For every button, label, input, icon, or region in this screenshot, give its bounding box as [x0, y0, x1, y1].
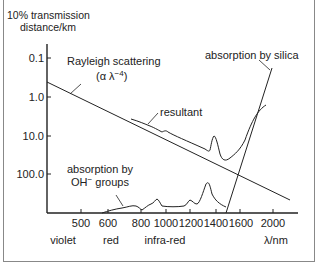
x-tick-600: 600 — [99, 217, 117, 229]
silica-label: absorption by silica — [205, 49, 299, 61]
y-tick-1.0: 1.0 — [29, 91, 44, 103]
resultant-label: resultant — [160, 106, 202, 118]
x-tick-1600: 1600 — [229, 217, 253, 229]
y-tick-100.0: 100.0 — [16, 168, 44, 180]
x-tick-1000: 1000 — [154, 217, 178, 229]
rayleigh-label: Rayleigh scattering — [67, 55, 161, 67]
oh-label-line2: OH− groups — [71, 175, 129, 188]
y-tick-0.1: 0.1 — [29, 52, 44, 64]
y-tick-10.0: 10.0 — [23, 130, 44, 142]
label-infra-red: infra-red — [145, 234, 186, 246]
x-tick-800: 800 — [132, 217, 150, 229]
x-tick-1200: 1200 — [179, 217, 203, 229]
x-tick-500: 500 — [72, 217, 90, 229]
rayleigh-leader — [70, 84, 81, 94]
label-red: red — [103, 234, 119, 246]
resultant-leader — [148, 113, 158, 124]
silica-line — [226, 68, 272, 213]
oh-label-line1: absorption by — [67, 163, 134, 175]
y-axis-title-line2: distance/km — [20, 21, 76, 33]
x-axis-unit: λ/nm — [264, 234, 288, 246]
chart: 10% transmission distance/km 0.1 1.0 10.… — [0, 0, 320, 268]
x-tick-2000: 2000 — [261, 217, 285, 229]
label-violet: violet — [50, 234, 76, 246]
y-ticks: 0.1 1.0 10.0 100.0 — [16, 52, 51, 180]
x-tick-1400: 1400 — [204, 217, 228, 229]
oh-leader — [116, 195, 123, 206]
y-axis-title-line1: 10% transmission — [7, 9, 90, 21]
rayleigh-formula: (α λ−4) — [96, 69, 127, 82]
silica-leader — [259, 60, 270, 70]
